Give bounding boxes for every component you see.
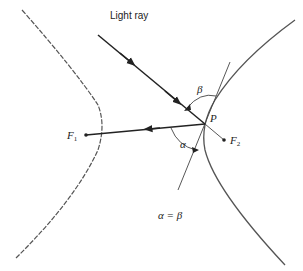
reflected-ray-arrow	[148, 128, 160, 129]
beta-label: β	[196, 83, 203, 95]
reflected-ray	[86, 124, 205, 135]
incident-ray-arrow-2	[165, 91, 178, 102]
alpha-label: α	[180, 138, 186, 150]
incident-ray-arrow-1	[120, 53, 132, 63]
hyperbola-right-branch	[204, 20, 295, 265]
hyperbola-reflection-diagram: Light ray P β α F1 F2 α = β	[0, 0, 303, 271]
point-p-label: P	[209, 112, 217, 124]
equation-label: α = β	[158, 209, 183, 221]
incident-ray	[98, 35, 205, 124]
light-ray-label: Light ray	[110, 10, 148, 21]
focus1-label: F1	[66, 129, 78, 143]
focus1-point	[84, 133, 88, 137]
focus2-point	[222, 138, 226, 142]
focus2-line	[205, 124, 224, 140]
focus2-label: F2	[229, 134, 241, 148]
